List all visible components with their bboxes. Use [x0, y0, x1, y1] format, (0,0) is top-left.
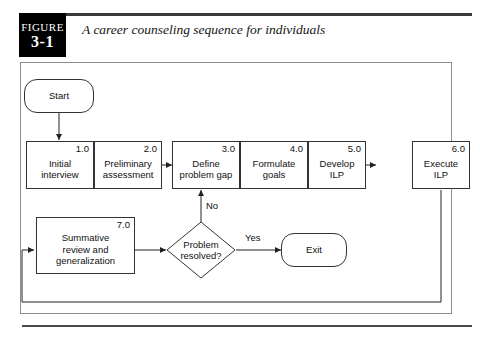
- node-step-5-label: Develop ILP: [320, 158, 355, 181]
- node-step-1[interactable]: 1.0 Initial interview: [26, 141, 94, 189]
- node-step-5[interactable]: 5.0 Develop ILP: [308, 141, 366, 189]
- node-step-7[interactable]: 7.0 Summative review and generalization: [36, 217, 135, 274]
- node-step-3[interactable]: 3.0 Define problem gap: [172, 141, 240, 189]
- node-step-6-label: Execute ILP: [424, 158, 458, 181]
- edge-label-no: No: [206, 200, 218, 211]
- node-step-2[interactable]: 2.0 Preliminary assessment: [94, 141, 162, 189]
- node-step-2-label: Preliminary assessment: [103, 158, 154, 181]
- node-exit[interactable]: Exit: [281, 233, 347, 267]
- figure-page: FIGURE 3-1 A career counseling sequence …: [0, 0, 480, 337]
- node-step-6-number: 6.0: [452, 144, 465, 154]
- node-decision[interactable]: Problem resolved?: [166, 221, 236, 279]
- node-start-label: Start: [49, 90, 69, 102]
- node-decision-label: Problem resolved?: [166, 221, 236, 279]
- node-step-4[interactable]: 4.0 Formulate goals: [240, 141, 308, 189]
- node-step-3-label: Define problem gap: [180, 158, 233, 181]
- footer-rule: [22, 325, 472, 327]
- node-step-6[interactable]: 6.0 Execute ILP: [412, 141, 470, 189]
- node-start[interactable]: Start: [24, 79, 94, 113]
- node-step-7-label: Summative review and generalization: [56, 232, 115, 267]
- edge-label-yes: Yes: [245, 232, 261, 243]
- node-step-4-number: 4.0: [290, 144, 303, 154]
- node-step-1-label: Initial interview: [41, 158, 79, 181]
- flowchart-diagram: Start 1.0 Initial interview 2.0 Prelimin…: [0, 0, 480, 337]
- node-step-7-number: 7.0: [117, 220, 130, 230]
- node-step-5-number: 5.0: [348, 144, 361, 154]
- node-step-1-number: 1.0: [76, 144, 89, 154]
- node-exit-label: Exit: [306, 244, 322, 256]
- node-step-4-label: Formulate goals: [253, 158, 296, 181]
- node-step-3-number: 3.0: [222, 144, 235, 154]
- node-step-2-number: 2.0: [144, 144, 157, 154]
